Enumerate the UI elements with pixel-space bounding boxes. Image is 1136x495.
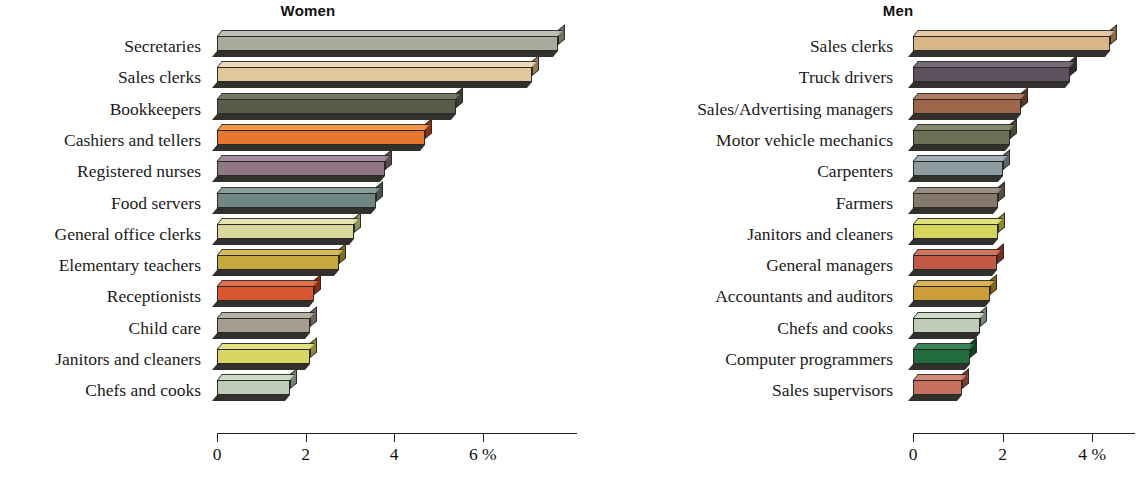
bar-row[interactable]: Sales clerks: [600, 33, 1136, 59]
category-label: Registered nurses: [0, 158, 201, 184]
category-label: Janitors and cleaners: [0, 346, 201, 372]
axis-tick: [306, 433, 307, 442]
bar-3d[interactable]: [217, 224, 354, 245]
bar-front-face: [217, 161, 385, 176]
bar-row[interactable]: Elementary teachers: [0, 252, 600, 278]
bar-front-face: [913, 380, 962, 395]
bar-shadow: [908, 176, 1003, 182]
category-label: Sales clerks: [0, 64, 201, 90]
bar-row[interactable]: Motor vehicle mechanics: [600, 127, 1136, 153]
bar-front-face: [913, 130, 1010, 145]
bar-shadow: [908, 145, 1010, 151]
bar-front-face: [913, 161, 1003, 176]
bar-row[interactable]: Sales clerks: [0, 64, 600, 90]
bar-3d[interactable]: [913, 67, 1070, 88]
bar-shadow: [212, 145, 425, 151]
bar-shadow: [212, 301, 314, 307]
bar-front-face: [913, 349, 970, 364]
category-label: Farmers: [600, 190, 893, 216]
bar-3d[interactable]: [913, 130, 1010, 151]
category-label: Receptionists: [0, 283, 201, 309]
bar-shadow: [212, 333, 310, 339]
bar-3d[interactable]: [217, 193, 376, 214]
bar-row[interactable]: Receptionists: [0, 283, 600, 309]
category-label: Truck drivers: [600, 64, 893, 90]
axis-tick: [1003, 433, 1004, 442]
bar-front-face: [217, 349, 310, 364]
bar-row[interactable]: Sales supervisors: [600, 377, 1136, 403]
axis-tick-label: 0: [888, 444, 938, 465]
bar-front-face: [217, 224, 354, 239]
bar-front-face: [217, 193, 376, 208]
axis-tick-label: 6 %: [458, 444, 508, 465]
bar-3d[interactable]: [217, 349, 310, 370]
category-label: Motor vehicle mechanics: [600, 127, 893, 153]
chart-panel-men: Men Sales clerksTruck driversSales/Adver…: [600, 0, 1136, 495]
bar-row[interactable]: Cashiers and tellers: [0, 127, 600, 153]
bar-row[interactable]: Carpenters: [600, 158, 1136, 184]
bar-3d[interactable]: [913, 193, 998, 214]
axis-tick-label: 2: [281, 444, 331, 465]
chart-title-men: Men: [818, 2, 978, 19]
axis-tick: [913, 433, 914, 442]
bar-3d[interactable]: [913, 161, 1003, 182]
category-label: Janitors and cleaners: [600, 221, 893, 247]
category-label: Bookkeepers: [0, 96, 201, 122]
bar-row[interactable]: Sales/Advertising managers: [600, 96, 1136, 122]
bar-3d[interactable]: [913, 286, 990, 307]
category-label: Sales/Advertising managers: [600, 96, 893, 122]
bar-shadow: [212, 395, 290, 401]
bar-3d[interactable]: [913, 99, 1021, 120]
x-axis-women: 0246 %: [217, 433, 577, 473]
category-label: Cashiers and tellers: [0, 127, 201, 153]
bar-row[interactable]: General office clerks: [0, 221, 600, 247]
bar-3d[interactable]: [913, 255, 997, 276]
bar-row[interactable]: Food servers: [0, 190, 600, 216]
axis-tick-label: 4: [369, 444, 419, 465]
bar-front-face: [217, 99, 456, 114]
bar-3d[interactable]: [913, 224, 998, 245]
bar-front-face: [217, 286, 314, 301]
bar-front-face: [217, 318, 310, 333]
bar-front-face: [913, 318, 980, 333]
bar-row[interactable]: General managers: [600, 252, 1136, 278]
bar-3d[interactable]: [217, 99, 456, 120]
bar-shadow: [908, 395, 962, 401]
bar-row[interactable]: Janitors and cleaners: [600, 221, 1136, 247]
bar-3d[interactable]: [217, 67, 532, 88]
bar-row[interactable]: Chefs and cooks: [600, 315, 1136, 341]
bar-3d[interactable]: [217, 380, 290, 401]
bar-shadow: [212, 82, 532, 88]
category-label: Chefs and cooks: [600, 315, 893, 341]
bar-3d[interactable]: [913, 36, 1110, 57]
bar-row[interactable]: Registered nurses: [0, 158, 600, 184]
bar-shadow: [908, 239, 998, 245]
bar-row[interactable]: Child care: [0, 315, 600, 341]
axis-tick-label: 4 %: [1067, 444, 1117, 465]
bar-3d[interactable]: [217, 286, 314, 307]
bar-shadow: [908, 114, 1021, 120]
category-label: Computer programmers: [600, 346, 893, 372]
bar-3d[interactable]: [913, 349, 970, 370]
bar-front-face: [217, 130, 425, 145]
bar-shadow: [212, 176, 385, 182]
bar-front-face: [913, 255, 997, 270]
bar-3d[interactable]: [217, 130, 425, 151]
bar-3d[interactable]: [217, 161, 385, 182]
bar-3d[interactable]: [217, 36, 558, 57]
bar-row[interactable]: Farmers: [600, 190, 1136, 216]
bar-row[interactable]: Secretaries: [0, 33, 600, 59]
category-label: Secretaries: [0, 33, 201, 59]
bar-shadow: [908, 333, 980, 339]
bar-row[interactable]: Accountants and auditors: [600, 283, 1136, 309]
bar-3d[interactable]: [217, 318, 310, 339]
bar-row[interactable]: Janitors and cleaners: [0, 346, 600, 372]
bar-row[interactable]: Computer programmers: [600, 346, 1136, 372]
bar-row[interactable]: Truck drivers: [600, 64, 1136, 90]
bar-row[interactable]: Bookkeepers: [0, 96, 600, 122]
bar-3d[interactable]: [913, 318, 980, 339]
bar-3d[interactable]: [913, 380, 962, 401]
bar-row[interactable]: Chefs and cooks: [0, 377, 600, 403]
axis-tick: [1092, 433, 1093, 442]
category-label: Food servers: [0, 190, 201, 216]
